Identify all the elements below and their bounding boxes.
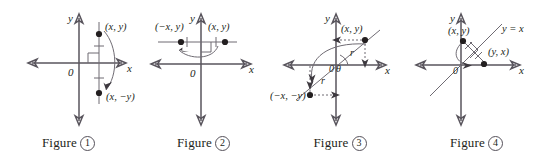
- right-angle-marker-icon: [470, 42, 478, 58]
- point-xy: [96, 31, 102, 37]
- point-x-neg-y: [96, 90, 102, 96]
- axis-label-x: x: [384, 64, 390, 76]
- point-label-neg-x-neg-y: (−x, −y): [270, 90, 306, 102]
- figure-panel-1: y x 0 (x, y) (x, −y) Figure1: [0, 0, 137, 153]
- point-label-xy: (x, y): [341, 23, 363, 35]
- point-label-xy: (x, y): [105, 21, 127, 33]
- figure-1-caption-word: Figure: [42, 135, 77, 150]
- figure-2-canvas: y x 0 (−x, y) (x, y): [137, 0, 270, 132]
- tick-mark-lower-icon: [475, 52, 482, 59]
- point-label-xy: (x, y): [208, 21, 230, 33]
- origin-label: 0: [453, 65, 458, 76]
- axis-label-x: x: [248, 63, 254, 75]
- rotation-arc: [311, 44, 366, 80]
- figure-panel-2: y x 0 (−x, y) (x, y) Figure2: [137, 0, 270, 153]
- point-neg-x-y: [178, 39, 184, 45]
- figure-2-caption-number: 2: [215, 136, 230, 151]
- reflection-arc: [104, 31, 115, 90]
- figure-4-caption-word: Figure: [450, 135, 485, 150]
- y-axis: [197, 14, 205, 125]
- arc-arrowhead-icon: [104, 82, 113, 90]
- figure-3-caption-number: 3: [352, 136, 367, 151]
- figure-4-caption: Figure4: [410, 135, 543, 151]
- line-label-y-equals-x: y = x: [501, 23, 524, 34]
- axis-label-x: x: [126, 62, 132, 74]
- point-xy: [362, 37, 368, 43]
- right-angle-marker-icon: [201, 42, 211, 52]
- point-label-neg-x-y: (−x, y): [155, 21, 184, 33]
- origin-label: 0: [68, 66, 74, 78]
- right-angle-marker-icon: [88, 53, 99, 63]
- origin-label: 0: [190, 67, 196, 79]
- y-axis: [75, 14, 83, 125]
- figure-3-canvas: y x 0 θ r r (x, y) (−x, −y): [270, 0, 410, 132]
- figure-panel-4: y x 0 (x, y) (y, x) y = x Figure4: [410, 0, 543, 153]
- figure-3-caption-word: Figure: [313, 135, 348, 150]
- radius-label-upper: r: [350, 47, 354, 58]
- axis-label-y: y: [449, 12, 455, 24]
- figure-2-caption: Figure2: [137, 135, 270, 151]
- axis-label-y: y: [67, 12, 73, 24]
- axis-label-x: x: [518, 64, 524, 76]
- figure-1-canvas: y x 0 (x, y) (x, −y): [0, 0, 137, 132]
- angle-label-theta: θ: [336, 63, 341, 74]
- dashed-leader-right-arrowhead-icon: [362, 59, 369, 68]
- point-neg-x-neg-y: [307, 92, 313, 98]
- tick-mark-upper-icon: [465, 42, 472, 49]
- figure-2-caption-word: Figure: [177, 135, 212, 150]
- point-yx: [481, 61, 487, 67]
- axis-label-y: y: [189, 12, 195, 24]
- point-label-x-neg-y: (x, −y): [106, 91, 135, 103]
- figure-1-caption-number: 1: [80, 136, 95, 151]
- point-label-xy: (x, y): [448, 25, 470, 37]
- figure-strip: y x 0 (x, y) (x, −y) Figure1: [0, 0, 543, 153]
- figure-4-canvas: y x 0 (x, y) (y, x) y = x: [410, 0, 543, 132]
- axis-label-y: y: [324, 12, 330, 24]
- point-xy: [222, 39, 228, 45]
- figure-4-caption-number: 4: [488, 136, 503, 151]
- radius-label-lower: r: [321, 75, 325, 86]
- point-xy: [460, 38, 466, 44]
- figure-1-caption: Figure1: [0, 135, 137, 151]
- figure-panel-3: y x 0 θ r r (x, y) (−x, −y) Figure3: [270, 0, 410, 153]
- x-axis: [28, 59, 126, 67]
- origin-label: 0: [329, 63, 334, 74]
- point-label-yx: (y, x): [488, 46, 509, 58]
- figure-3-caption: Figure3: [270, 135, 410, 151]
